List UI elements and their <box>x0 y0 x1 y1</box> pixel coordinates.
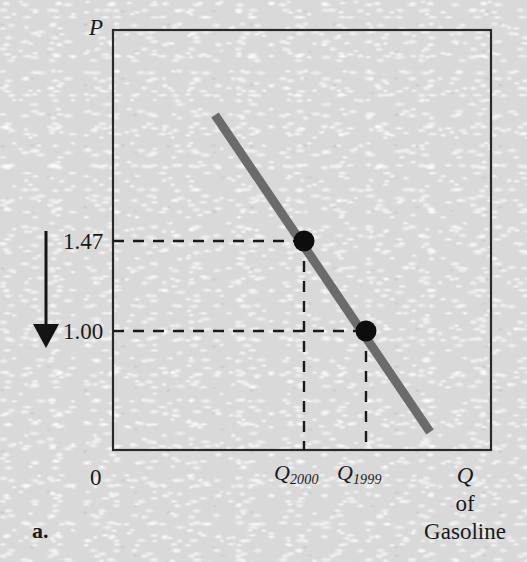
x-tick-q1999-symbol: Q <box>337 460 353 485</box>
y-tick-label-1-47: 1.47 <box>63 230 103 253</box>
data-point-equilibrium-2000 <box>294 231 315 252</box>
x-tick-q1999-subscript: 1999 <box>353 472 382 487</box>
x-axis-symbol: Q <box>413 462 517 490</box>
x-tick-q2000-symbol: Q <box>274 460 290 485</box>
x-tick-label-q1999: Q1999 <box>337 462 382 484</box>
x-axis-title-line-of: of <box>413 490 517 518</box>
origin-label: 0 <box>90 466 102 489</box>
demand-curve <box>215 115 430 432</box>
data-point-equilibrium-1999 <box>356 321 377 342</box>
x-axis-title: Q of Gasoline <box>413 462 517 546</box>
panel-label: a. <box>32 520 49 542</box>
x-tick-label-q2000: Q2000 <box>274 462 319 484</box>
x-axis-title-line-gasoline: Gasoline <box>413 518 517 546</box>
downward-price-arrow <box>33 231 59 348</box>
x-tick-q2000-subscript: 2000 <box>290 472 319 487</box>
y-axis-symbol: P <box>89 16 103 39</box>
y-tick-label-1-00: 1.00 <box>63 320 103 343</box>
figure-panel-a: P 1.47 1.00 0 Q2000 Q1999 Q of Gasoline … <box>0 0 527 562</box>
